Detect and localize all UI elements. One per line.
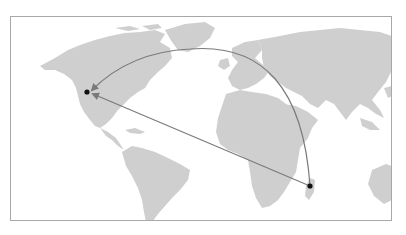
greenland xyxy=(165,22,215,52)
world-map xyxy=(0,0,406,235)
north-america xyxy=(40,30,172,128)
south-america xyxy=(122,146,190,222)
origin-point xyxy=(307,183,312,188)
destination-point xyxy=(84,89,89,94)
land-masses xyxy=(40,22,392,222)
